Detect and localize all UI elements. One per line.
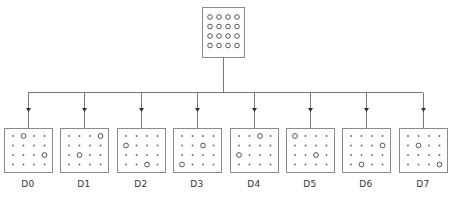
dot-icon xyxy=(23,145,25,147)
highlight-circle-icon xyxy=(180,162,185,167)
device-box-d0 xyxy=(5,129,53,173)
highlight-circle-icon xyxy=(237,153,242,158)
dot-icon xyxy=(68,164,70,166)
distribution-diagram xyxy=(0,0,453,199)
dot-icon xyxy=(249,135,251,137)
device-box-frame xyxy=(231,129,279,173)
dot-icon xyxy=(79,164,81,166)
device-box-d7 xyxy=(400,129,448,173)
highlight-circle-icon xyxy=(145,162,150,167)
arrow-down-icon xyxy=(252,108,257,112)
device-box-frame xyxy=(400,129,448,173)
dot-icon xyxy=(136,154,138,156)
source-circle-icon xyxy=(217,43,222,48)
highlight-circle-icon xyxy=(258,134,263,139)
dot-icon xyxy=(44,164,46,166)
dot-icon xyxy=(294,164,296,166)
device-label-d0: D0 xyxy=(4,179,52,189)
dot-icon xyxy=(361,135,363,137)
arrow-down-icon xyxy=(82,108,87,112)
dot-icon xyxy=(315,164,317,166)
device-boxes xyxy=(5,129,448,173)
dot-icon xyxy=(12,154,14,156)
dot-icon xyxy=(326,164,328,166)
dot-icon xyxy=(270,135,272,137)
dot-icon xyxy=(350,154,352,156)
dot-icon xyxy=(12,135,14,137)
dot-icon xyxy=(270,154,272,156)
dot-icon xyxy=(326,135,328,137)
dot-icon xyxy=(259,154,261,156)
dot-icon xyxy=(382,154,384,156)
dot-icon xyxy=(12,164,14,166)
dot-icon xyxy=(305,135,307,137)
dot-icon xyxy=(350,135,352,137)
dot-icon xyxy=(146,135,148,137)
dot-icon xyxy=(33,164,35,166)
source-circle-icon xyxy=(235,24,240,29)
dot-icon xyxy=(181,154,183,156)
device-label-d7: D7 xyxy=(399,179,447,189)
arrow-down-icon xyxy=(421,108,426,112)
dot-icon xyxy=(315,145,317,147)
dot-icon xyxy=(238,164,240,166)
device-box-frame xyxy=(5,129,53,173)
dot-icon xyxy=(407,164,409,166)
dot-icon xyxy=(33,154,35,156)
source-circle-icon xyxy=(226,24,231,29)
dot-icon xyxy=(407,135,409,137)
highlight-circle-icon xyxy=(77,153,82,158)
dot-icon xyxy=(428,154,430,156)
dot-icon xyxy=(33,145,35,147)
dot-icon xyxy=(89,164,91,166)
dot-icon xyxy=(238,145,240,147)
device-label-d3: D3 xyxy=(173,179,221,189)
dot-icon xyxy=(125,135,127,137)
dot-icon xyxy=(68,135,70,137)
highlight-circle-icon xyxy=(437,162,442,167)
dot-icon xyxy=(125,154,127,156)
dot-icon xyxy=(315,135,317,137)
highlight-circle-icon xyxy=(201,143,206,148)
device-box-d6 xyxy=(343,129,391,173)
dot-icon xyxy=(259,145,261,147)
dot-icon xyxy=(270,164,272,166)
dot-icon xyxy=(418,154,420,156)
source-circle-icon xyxy=(217,24,222,29)
highlight-circle-icon xyxy=(124,143,129,148)
dot-icon xyxy=(305,164,307,166)
dot-icon xyxy=(305,145,307,147)
dot-icon xyxy=(157,145,159,147)
dot-icon xyxy=(33,135,35,137)
dot-icon xyxy=(157,164,159,166)
dot-icon xyxy=(23,154,25,156)
dot-icon xyxy=(89,135,91,137)
dot-icon xyxy=(202,135,204,137)
device-label-d1: D1 xyxy=(60,179,108,189)
dot-icon xyxy=(136,145,138,147)
highlight-circle-icon xyxy=(380,143,385,148)
dot-icon xyxy=(157,154,159,156)
dot-icon xyxy=(181,145,183,147)
dot-icon xyxy=(213,154,215,156)
source-circle-icon xyxy=(208,43,213,48)
dot-icon xyxy=(371,135,373,137)
dot-icon xyxy=(294,154,296,156)
dot-icon xyxy=(12,145,14,147)
dot-icon xyxy=(136,135,138,137)
dot-icon xyxy=(259,164,261,166)
source-circle-icon xyxy=(226,34,231,39)
source-circle-icon xyxy=(208,15,213,20)
dot-icon xyxy=(418,164,420,166)
dot-icon xyxy=(407,145,409,147)
source-circle-icon xyxy=(235,43,240,48)
device-label-d6: D6 xyxy=(342,179,390,189)
dot-icon xyxy=(428,164,430,166)
dot-icon xyxy=(249,154,251,156)
dot-icon xyxy=(326,145,328,147)
dot-icon xyxy=(79,145,81,147)
device-box-d4 xyxy=(231,129,279,173)
highlight-circle-icon xyxy=(293,134,298,139)
dot-icon xyxy=(213,164,215,166)
dot-icon xyxy=(350,145,352,147)
